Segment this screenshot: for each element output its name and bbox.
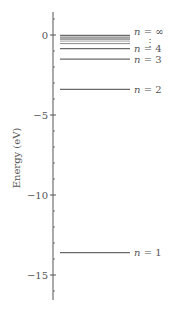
level-label-n-inf: n = ∞ <box>134 26 164 37</box>
level-label-n-3: n = 3 <box>134 54 162 65</box>
energy-level-diagram: 0 −5 −10 −15 Energy (eV) n = ∞ ⋮ n = 4 n… <box>0 0 180 318</box>
y-tick-label-minus-5: −5 <box>33 110 48 121</box>
level-label-n-1: n = 1 <box>134 247 162 258</box>
level-label-n-4: n = 4 <box>134 43 162 54</box>
y-tick-label-minus-15: −15 <box>27 270 48 281</box>
y-axis-title: Energy (eV) <box>11 128 22 189</box>
y-tick-label-minus-10: −10 <box>27 190 48 201</box>
energy-levels <box>60 36 130 253</box>
level-label-n-2: n = 2 <box>134 84 162 95</box>
y-tick-label-0: 0 <box>42 30 48 41</box>
